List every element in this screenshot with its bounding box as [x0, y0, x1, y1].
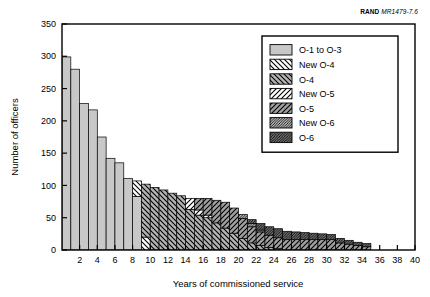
bar-segment — [336, 243, 345, 250]
bar-segment — [97, 137, 106, 250]
y-tick-label: 100 — [41, 181, 56, 191]
bar-segment — [265, 235, 274, 247]
bar-segment — [168, 193, 177, 250]
y-tick-label: 250 — [41, 84, 56, 94]
y-tick-label: 0 — [51, 245, 56, 255]
chart-legend: O-1 to O-3New O-4O-4New O-5O-5New O-6O-6 — [262, 36, 398, 152]
bar-segment — [344, 240, 353, 244]
bar-segment — [194, 210, 203, 215]
bar-segment — [300, 240, 309, 250]
bar-segment — [247, 220, 256, 224]
bar-segment — [133, 181, 142, 196]
bar-segment — [203, 218, 212, 250]
bar-segment — [141, 184, 150, 237]
x-tick-label: 18 — [216, 255, 226, 265]
legend-swatch — [270, 132, 292, 142]
bar-segment — [265, 227, 274, 235]
bar-segment — [239, 218, 248, 238]
figure-container: RAND MR1479-7.6 — [0, 0, 430, 297]
source-id: MR1479-7.6 — [381, 8, 418, 15]
legend-swatch — [270, 88, 292, 98]
bar-segment — [133, 196, 142, 250]
bar-segment — [362, 244, 371, 247]
legend-label: New O-4 — [299, 60, 335, 70]
x-tick-label: 26 — [286, 255, 296, 265]
bar-segment — [115, 163, 124, 250]
bar-segment — [309, 240, 318, 250]
bar-segment — [203, 215, 212, 218]
figure-source-credit: RAND MR1479-7.6 — [360, 8, 418, 15]
bar-segment — [300, 233, 309, 240]
bar-segment — [239, 238, 248, 250]
bar-segment — [283, 231, 292, 239]
bar-segment — [80, 103, 89, 250]
y-axis-label: Number of officers — [9, 98, 20, 176]
legend-swatch — [270, 74, 292, 84]
x-tick-label: 2 — [77, 255, 82, 265]
bar-segment — [124, 178, 133, 250]
bar-segment — [159, 190, 168, 250]
x-tick-label: 34 — [357, 255, 367, 265]
x-tick-label: 38 — [392, 255, 402, 265]
x-tick-label: 30 — [322, 255, 332, 265]
bar-segment — [221, 228, 230, 250]
x-tick-label: 22 — [251, 255, 261, 265]
x-tick-label: 10 — [145, 255, 155, 265]
bar-segment — [256, 232, 265, 246]
bar-segment — [203, 198, 212, 215]
x-tick-label: 16 — [198, 255, 208, 265]
bar-segment — [274, 238, 283, 249]
bar-segment — [291, 232, 300, 240]
bar-segment — [309, 233, 318, 239]
bar-segment — [141, 237, 150, 250]
legend-swatch — [270, 45, 292, 55]
legend-label: New O-5 — [299, 89, 335, 99]
y-tick-label: 200 — [41, 116, 56, 126]
bar-segment — [336, 238, 345, 243]
bar-segment — [230, 233, 239, 250]
legend-swatch — [270, 59, 292, 69]
y-tick-label: 300 — [41, 51, 56, 61]
bar-segment — [291, 240, 300, 250]
bar-segment — [318, 234, 327, 240]
bar-segment — [194, 215, 203, 250]
bar-segment — [247, 224, 256, 227]
bar-segment — [71, 69, 80, 250]
x-tick-label: 14 — [181, 255, 191, 265]
bar-segment — [150, 187, 159, 250]
bar-segment — [344, 244, 353, 250]
legend-label: O-1 to O-3 — [299, 45, 342, 55]
stacked-bar-chart: 050100150200250300350 246810121416182022… — [0, 0, 430, 297]
x-axis-label: Years of commissioned service — [173, 278, 304, 289]
x-tick-label: 6 — [112, 255, 117, 265]
bar-segment — [274, 229, 283, 238]
bar-segment — [230, 208, 239, 233]
bar-segment — [212, 223, 221, 250]
y-tick-label: 50 — [46, 213, 56, 223]
bar-segment — [318, 240, 327, 250]
legend-label: O-6 — [299, 133, 314, 143]
y-tick-label: 150 — [41, 148, 56, 158]
x-tick-label: 12 — [163, 255, 173, 265]
bar-segment — [239, 214, 248, 218]
legend-swatch — [270, 103, 292, 113]
bar-segment — [186, 209, 195, 250]
bar-segment — [283, 240, 292, 250]
x-tick-label: 40 — [410, 255, 420, 265]
legend-label: O-5 — [299, 104, 314, 114]
legend-label: O-4 — [299, 75, 314, 85]
x-tick-labels: 246810121416182022242628303234363840 — [77, 255, 420, 265]
bar-segment — [212, 200, 221, 223]
x-tick-label: 20 — [233, 255, 243, 265]
bar-segment — [177, 196, 186, 250]
x-tick-label: 8 — [130, 255, 135, 265]
bar-segment — [186, 198, 195, 209]
bar-segment — [327, 240, 336, 250]
bar-segment — [88, 110, 97, 250]
legend-label: New O-6 — [299, 118, 335, 128]
y-tick-label: 350 — [41, 19, 56, 29]
bar-segment — [327, 235, 336, 240]
bar-segment — [194, 198, 203, 210]
bar-segment — [353, 242, 362, 245]
bar-segment — [256, 224, 265, 230]
